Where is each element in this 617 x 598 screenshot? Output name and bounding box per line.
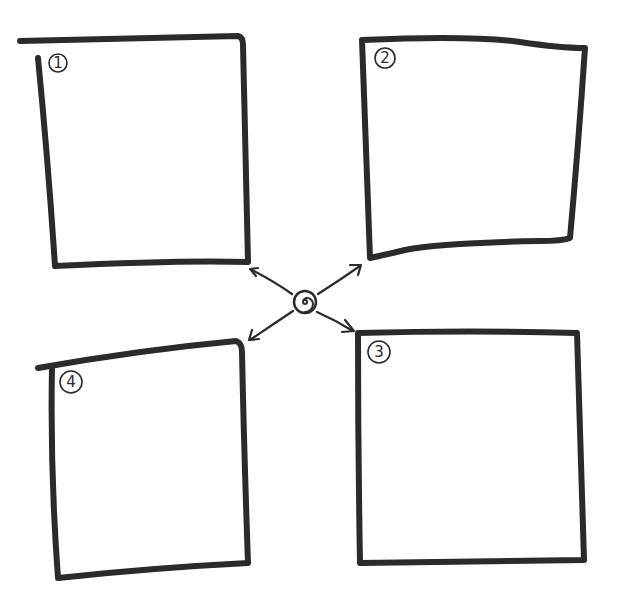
box-3-outline: [358, 332, 584, 564]
box-4-number: 4: [66, 373, 76, 391]
arrow-to-box-1: [250, 268, 292, 294]
box-1: 1: [20, 36, 248, 266]
box-4: 4: [38, 341, 248, 578]
box-2-outline: [362, 38, 585, 258]
arrow-to-box-4: [249, 311, 293, 340]
box-3-number: 3: [374, 343, 384, 361]
arrow-to-box-3: [317, 312, 354, 332]
arrow-to-box-2: [318, 265, 361, 294]
box-2-number: 2: [380, 49, 390, 67]
quadrant-diagram: 1 2 3 4: [0, 0, 617, 598]
box-3: 3: [358, 332, 584, 564]
box-1-number: 1: [53, 54, 63, 72]
spiral-hub-icon: [294, 291, 316, 313]
box-2: 2: [362, 38, 585, 258]
